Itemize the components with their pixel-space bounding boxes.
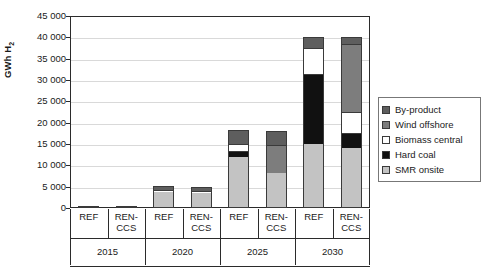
bar-2030-ref[interactable] <box>303 37 324 208</box>
bar-segment-by-product <box>303 37 324 48</box>
bar-2020-ref[interactable] <box>153 186 174 208</box>
y-axis-tick-label: 5 000 <box>12 182 66 192</box>
x-axis-scenario-label: REN-CCS <box>258 209 296 239</box>
x-axis-separator <box>258 209 259 239</box>
legend-item-by-product[interactable]: By-product <box>382 102 476 117</box>
y-axis-tick-label: 10 000 <box>12 160 66 170</box>
x-axis-year-edge <box>369 239 370 265</box>
bar-segment-smr-onsite <box>191 193 212 208</box>
x-axis-year-edge <box>70 239 71 265</box>
x-axis-scenario-label: REF <box>70 209 108 239</box>
y-axis-tick-label: 15 000 <box>12 139 66 149</box>
legend-swatch-icon <box>382 151 390 159</box>
x-axis-separator <box>108 209 109 239</box>
chart-legend: By-productWind offshoreBiomass centralHa… <box>378 97 481 182</box>
x-axis-scenario-label: REF <box>220 209 258 239</box>
legend-label: Biomass central <box>395 135 463 145</box>
legend-swatch-icon <box>382 121 390 129</box>
x-axis-separator <box>220 209 221 239</box>
x-axis-edge <box>70 209 71 239</box>
bar-segment-hard-coal <box>341 133 362 148</box>
bar-2025-ref[interactable] <box>228 130 249 208</box>
bar-segment-smr-onsite <box>116 206 137 208</box>
legend-item-hard-coal[interactable]: Hard coal <box>382 147 476 162</box>
legend-swatch-icon <box>382 136 390 144</box>
legend-swatch-icon <box>382 106 390 114</box>
x-axis-scenario-row: REFREN-CCSREFREN-CCSREFREN-CCSREFREN-CCS <box>70 209 370 239</box>
y-axis-title: GWh H2 <box>2 16 15 78</box>
legend-label: Hard coal <box>395 150 436 160</box>
bar-segment-smr-onsite <box>228 157 249 208</box>
y-axis-tick-label: 35 000 <box>12 54 66 64</box>
y-axis-tick-label: 0 <box>12 203 66 213</box>
bar-2015-ren-ccs[interactable] <box>116 206 137 208</box>
legend-label: Wind offshore <box>395 120 453 130</box>
legend-item-smr-onsite[interactable]: SMR onsite <box>382 162 476 177</box>
legend-label: By-product <box>395 105 441 115</box>
x-axis-year-separator <box>220 239 221 265</box>
x-axis-scenario-label: REN-CCS <box>108 209 146 239</box>
bar-segment-smr-onsite <box>153 192 174 208</box>
bar-segment-by-product <box>228 130 249 144</box>
x-axis-year-separator <box>145 239 146 265</box>
bar-2015-ref[interactable] <box>78 206 99 208</box>
bars-layer <box>70 16 370 208</box>
y-axis-tick-label: 25 000 <box>12 96 66 106</box>
bar-segment-smr-onsite <box>78 206 99 208</box>
legend-item-wind-offshore[interactable]: Wind offshore <box>382 117 476 132</box>
x-axis-edge <box>369 209 370 239</box>
bar-segment-biomass-central <box>303 48 324 74</box>
x-axis-year-row: 2015202020252030 <box>70 239 370 267</box>
legend-swatch-icon <box>382 166 390 174</box>
y-axis-tick-label: 45 000 <box>12 11 66 21</box>
x-axis-scenario-label: REF <box>295 209 333 239</box>
y-axis-tick-label: 20 000 <box>12 118 66 128</box>
x-axis-separator <box>333 209 334 239</box>
bar-2025-ren-ccs[interactable] <box>266 131 287 208</box>
x-axis-scenario-label: REN-CCS <box>183 209 221 239</box>
bar-segment-biomass-central <box>228 144 249 151</box>
bar-segment-smr-onsite <box>266 173 287 208</box>
y-axis-title-subscript: 2 <box>8 42 15 46</box>
bar-segment-wind-offshore <box>341 44 362 112</box>
x-axis-separator <box>295 209 296 239</box>
legend-label: SMR onsite <box>395 165 444 175</box>
x-axis-scenario-label: REN-CCS <box>333 209 371 239</box>
bar-segment-by-product <box>266 131 287 145</box>
y-axis-tick-label: 30 000 <box>12 75 66 85</box>
bar-2020-ren-ccs[interactable] <box>191 187 212 208</box>
chart-container: GWh H2 45 00040 00035 00030 00025 00020 … <box>0 0 484 275</box>
x-axis-scenario-label: REF <box>145 209 183 239</box>
x-axis-separator <box>145 209 146 239</box>
x-axis-separator <box>183 209 184 239</box>
x-axis-year-label: 2020 <box>145 239 220 265</box>
bar-segment-wind-offshore <box>266 145 287 173</box>
bar-segment-smr-onsite <box>303 144 324 208</box>
bar-segment-hard-coal <box>303 74 324 144</box>
bar-segment-smr-onsite <box>341 148 362 208</box>
x-axis-year-separator <box>295 239 296 265</box>
x-axis-year-label: 2015 <box>70 239 145 265</box>
y-axis-tick-label: 40 000 <box>12 32 66 42</box>
bar-segment-biomass-central <box>341 112 362 133</box>
legend-item-biomass-central[interactable]: Biomass central <box>382 132 476 147</box>
x-axis-year-label: 2025 <box>220 239 295 265</box>
x-axis-year-label: 2030 <box>295 239 370 265</box>
bar-2030-ren-ccs[interactable] <box>341 37 362 208</box>
